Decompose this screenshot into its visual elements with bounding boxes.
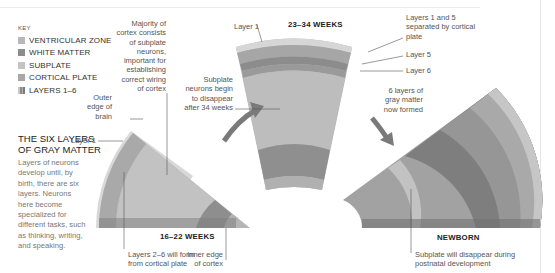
stage-label-16-22-weeks: 16–22 WEEKS	[160, 232, 215, 241]
annotation-majority-subplate: Majority of cortex consists of subplate …	[106, 19, 166, 93]
stage-label-23-34-weeks: 23–34 WEEKS	[288, 20, 343, 29]
annotation-layer1-top: Layer 1	[234, 22, 259, 31]
annotation-subplate-disappear: Subplate neurons begin to disappear afte…	[170, 75, 233, 112]
annotation-six-layers-formed: 6 layers of gray matter now formed	[380, 86, 423, 114]
arrow-to-newborn	[372, 118, 394, 146]
wedge-newborn	[343, 88, 542, 228]
stage-label-newborn: NEWBORN	[437, 233, 480, 242]
annotation-layer6: Layer 6	[406, 66, 431, 75]
annotation-inner-edge: Inner edge of cortex	[180, 250, 223, 269]
annotation-layer5: Layer 5	[406, 50, 431, 59]
annotation-layer1-left: Layer 1	[71, 136, 96, 145]
annotation-subplate-newborn: Subplate will disappear during postnatal…	[415, 250, 515, 269]
annotation-layers-1-and-5: Layers 1 and 5 separated by cortical pla…	[406, 13, 475, 41]
wedge-16-22-weeks	[96, 131, 250, 228]
annotation-outer-edge: Outer edge of brain	[70, 93, 112, 121]
